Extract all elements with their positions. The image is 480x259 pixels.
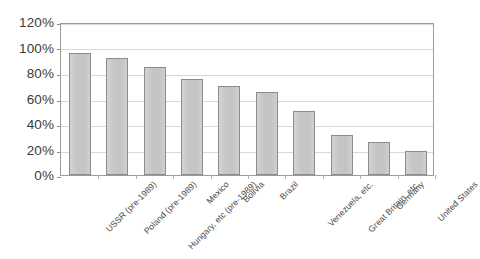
y-axis-tick-label: 0% xyxy=(6,169,54,183)
bar xyxy=(144,67,166,175)
y-axis-tick-label: 40% xyxy=(6,118,54,132)
bar xyxy=(218,86,240,175)
y-axis-tick-label: 80% xyxy=(6,67,54,81)
bar xyxy=(331,135,353,175)
bar xyxy=(181,79,203,175)
bar xyxy=(405,151,427,175)
y-axis-tick-label: 20% xyxy=(6,144,54,158)
x-axis-category-labels: USSR (pre-1989)Poland (pre-1989)Hungary,… xyxy=(60,176,434,259)
x-axis-tick-label: Venezuela, etc. xyxy=(327,180,375,228)
x-axis-tick-mark xyxy=(435,175,436,179)
bar xyxy=(106,58,128,175)
y-axis-tick-label: 100% xyxy=(6,42,54,56)
plot-area xyxy=(60,23,434,176)
bars-group xyxy=(61,24,433,175)
bar xyxy=(69,53,91,175)
y-axis-tick-label: 120% xyxy=(6,16,54,30)
bar xyxy=(256,92,278,175)
x-axis-tick-label: United States xyxy=(437,180,480,223)
bar xyxy=(368,142,390,175)
y-axis-tick-label: 60% xyxy=(6,93,54,107)
x-axis-tick-label: Brazil xyxy=(278,180,299,201)
y-axis-tick-labels: 120%100%80%60%40%20%0% xyxy=(6,0,54,259)
bar xyxy=(293,111,315,175)
